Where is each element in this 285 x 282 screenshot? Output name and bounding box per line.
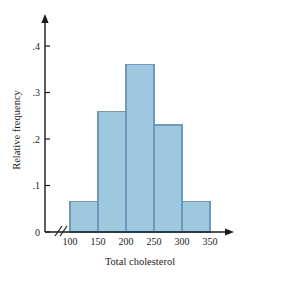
x-tick-labels: 100 150 200 250 300 350	[63, 236, 218, 247]
y-tick-labels: 0 .1 .2 .3 .4	[33, 41, 41, 238]
x-axis-arrowhead	[225, 228, 234, 235]
chart-canvas: 0 .1 .2 .3 .4 100 150 200 250 300 350 To…	[0, 0, 285, 282]
y-axis-title: Relative frequency	[11, 89, 22, 169]
histogram-bar	[154, 125, 182, 232]
x-tick-label: 300	[175, 236, 190, 247]
x-tick-label: 150	[91, 236, 106, 247]
y-tick-label: .1	[33, 180, 41, 191]
y-axis-arrowhead	[41, 14, 48, 23]
histogram-bar	[182, 202, 210, 232]
histogram-figure: 0 .1 .2 .3 .4 100 150 200 250 300 350 To…	[0, 0, 285, 282]
x-tick-label: 250	[147, 236, 162, 247]
bars-group	[70, 65, 210, 232]
histogram-bar	[126, 65, 154, 232]
histogram-bar	[98, 111, 126, 232]
y-tick-label: 0	[35, 227, 40, 238]
axis-break-mark	[55, 226, 67, 236]
y-tick-label: .2	[33, 134, 41, 145]
x-tick-label: 100	[63, 236, 78, 247]
x-axis-title: Total cholesterol	[105, 256, 175, 267]
y-tick-label: .4	[33, 41, 41, 52]
y-tick-label: .3	[33, 87, 41, 98]
y-tick-marks	[45, 46, 50, 232]
histogram-bar	[70, 202, 98, 232]
y-axis	[41, 14, 48, 232]
x-tick-label: 350	[203, 236, 218, 247]
x-tick-label: 200	[119, 236, 134, 247]
